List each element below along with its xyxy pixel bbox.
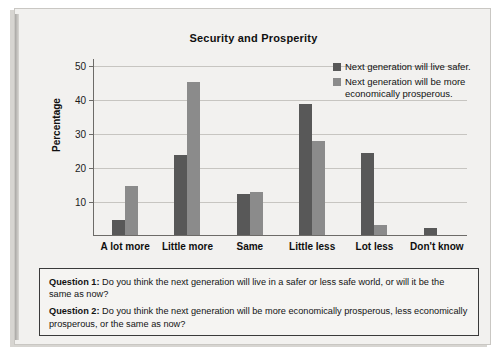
legend-swatch-icon bbox=[333, 63, 341, 71]
bar-series-0 bbox=[361, 153, 374, 235]
chart-title: Security and Prosperity bbox=[15, 32, 492, 44]
bar-series-0 bbox=[174, 155, 187, 235]
legend-item: Next generation will be more economicall… bbox=[333, 76, 501, 100]
y-axis-title: Percentage bbox=[51, 98, 62, 152]
bar-group: A lot more bbox=[94, 59, 156, 235]
y-axis-tick-label: 50 bbox=[75, 60, 86, 71]
question-label: Question 2: bbox=[49, 306, 100, 316]
page-edge-shadow bbox=[15, 14, 19, 340]
chart-legend: Next generation will live safer.Next gen… bbox=[333, 61, 501, 103]
y-axis-tick-label: 20 bbox=[75, 162, 86, 173]
bar-group: Same bbox=[219, 59, 281, 235]
questions-box: Question 1: Do you think the next genera… bbox=[39, 268, 479, 336]
bar-series-1 bbox=[250, 192, 263, 235]
bar-series-1 bbox=[187, 82, 200, 235]
question-line: Question 2: Do you think the next genera… bbox=[49, 305, 469, 329]
x-axis-tick-label: Lot less bbox=[356, 241, 394, 252]
legend-swatch-icon bbox=[333, 78, 341, 86]
y-axis-tick-label: 40 bbox=[75, 94, 86, 105]
y-axis-tick-label: 10 bbox=[75, 196, 86, 207]
bar-series-1 bbox=[125, 186, 138, 235]
legend-label: Next generation will live safer. bbox=[345, 61, 501, 73]
bar-series-0 bbox=[237, 194, 250, 235]
bar-group: Little more bbox=[156, 59, 218, 235]
question-line: Question 1: Do you think the next genera… bbox=[49, 276, 469, 300]
bar-series-0 bbox=[112, 220, 125, 235]
legend-item: Next generation will live safer. bbox=[333, 61, 501, 73]
x-axis-tick-label: Little less bbox=[289, 241, 335, 252]
figure-page: Security and Prosperity Percentage 10203… bbox=[0, 0, 501, 362]
x-axis-tick-label: Same bbox=[236, 241, 263, 252]
x-axis-tick-label: A lot more bbox=[101, 241, 150, 252]
figure-panel: Security and Prosperity Percentage 10203… bbox=[14, 8, 491, 345]
question-text: Do you think the next generation will be… bbox=[49, 306, 467, 328]
legend-label: Next generation will be more economicall… bbox=[345, 76, 501, 100]
bar-series-0 bbox=[299, 104, 312, 235]
bar-series-1 bbox=[312, 141, 325, 235]
bar-series-1 bbox=[374, 225, 387, 235]
bar-series-0 bbox=[424, 228, 437, 235]
question-label: Question 1: bbox=[49, 277, 100, 287]
y-axis-tick-label: 30 bbox=[75, 128, 86, 139]
question-text: Do you think the next generation will li… bbox=[49, 277, 444, 299]
x-axis-tick-label: Little more bbox=[162, 241, 213, 252]
x-axis-tick-label: Don't know bbox=[410, 241, 463, 252]
